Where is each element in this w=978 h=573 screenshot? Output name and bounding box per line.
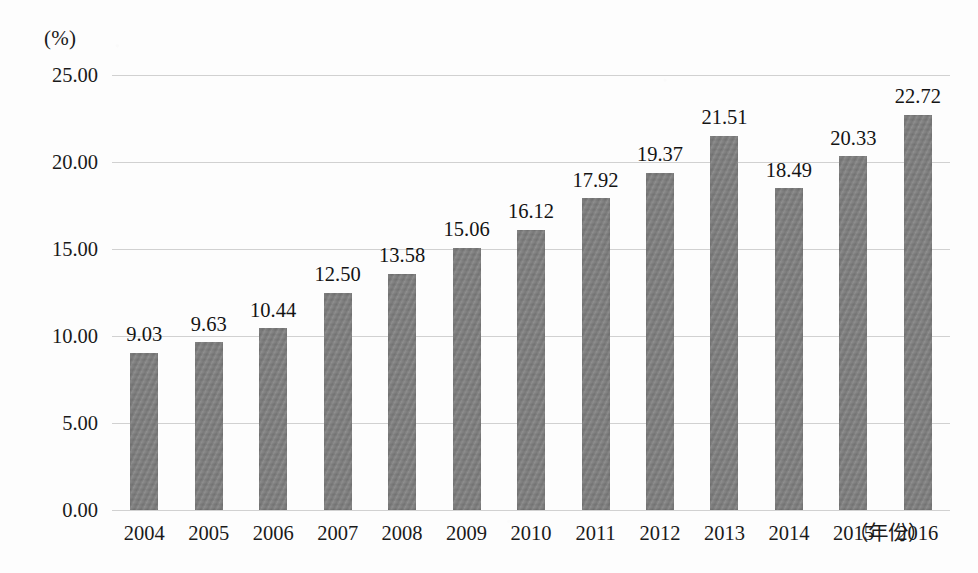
bar-slot: 9.03 bbox=[112, 75, 176, 510]
bar bbox=[324, 293, 352, 511]
bar-value-label: 16.12 bbox=[508, 201, 554, 222]
bar-slot: 17.92 bbox=[563, 75, 627, 510]
bar-value-label: 17.92 bbox=[572, 170, 618, 191]
bar bbox=[582, 198, 610, 510]
bar bbox=[388, 274, 416, 510]
x-axis-tick-label: 2007 bbox=[305, 516, 369, 550]
bar-value-label: 13.58 bbox=[379, 245, 425, 266]
bar bbox=[775, 188, 803, 510]
bar-value-label: 9.03 bbox=[126, 324, 162, 345]
bar-slot: 20.33 bbox=[821, 75, 885, 510]
bar-slot: 15.06 bbox=[434, 75, 498, 510]
y-axis-tick-labels: 0.005.0010.0015.0020.0025.00 bbox=[0, 75, 98, 510]
bar bbox=[839, 156, 867, 510]
x-axis-tick-label: 2008 bbox=[370, 516, 434, 550]
y-axis-unit-label: (%) bbox=[44, 26, 76, 51]
x-axis-tick-label: 2004 bbox=[112, 516, 176, 550]
bar-slot: 18.49 bbox=[757, 75, 821, 510]
x-axis-tick-label: 2012 bbox=[628, 516, 692, 550]
bar-value-label: 21.51 bbox=[701, 107, 747, 128]
bar bbox=[710, 136, 738, 510]
bar bbox=[646, 173, 674, 510]
bar-slot: 12.50 bbox=[305, 75, 369, 510]
bar-value-label: 10.44 bbox=[250, 300, 296, 321]
bar-value-label: 20.33 bbox=[830, 128, 876, 149]
bar bbox=[130, 353, 158, 510]
bar bbox=[904, 115, 932, 510]
y-axis-tick-label: 5.00 bbox=[12, 413, 98, 434]
bar-slot: 19.37 bbox=[628, 75, 692, 510]
x-axis-title: （年份） bbox=[848, 516, 928, 550]
bar-chart-figure: (%) 0.005.0010.0015.0020.0025.00 9.039.6… bbox=[0, 0, 978, 573]
bar-series: 9.039.6310.4412.5013.5815.0616.1217.9219… bbox=[112, 75, 950, 510]
y-axis-tick-label: 25.00 bbox=[12, 65, 98, 86]
bar-slot: 10.44 bbox=[241, 75, 305, 510]
bar-slot: 22.72 bbox=[886, 75, 950, 510]
bar bbox=[259, 328, 287, 510]
y-axis-tick-label: 20.00 bbox=[12, 152, 98, 173]
y-axis-tick-label: 0.00 bbox=[12, 500, 98, 521]
x-axis-tick-label: 2005 bbox=[176, 516, 240, 550]
bar bbox=[517, 230, 545, 510]
x-axis-tick-label: 2010 bbox=[499, 516, 563, 550]
x-axis-tick-label: 2006 bbox=[241, 516, 305, 550]
x-axis-tick-labels: 2004200520062007200820092010201120122013… bbox=[112, 516, 950, 550]
gridline bbox=[112, 510, 950, 511]
bar bbox=[195, 342, 223, 510]
bar-value-label: 19.37 bbox=[637, 144, 683, 165]
y-axis-tick-label: 10.00 bbox=[12, 326, 98, 347]
bar-slot: 13.58 bbox=[370, 75, 434, 510]
x-axis-tick-label: 2014 bbox=[757, 516, 821, 550]
x-axis-tick-label: 2009 bbox=[434, 516, 498, 550]
x-axis-tick-label: 2011 bbox=[563, 516, 627, 550]
bar-slot: 9.63 bbox=[176, 75, 240, 510]
x-axis-tick-label: 2013 bbox=[692, 516, 756, 550]
bar-value-label: 15.06 bbox=[444, 219, 490, 240]
bar-slot: 16.12 bbox=[499, 75, 563, 510]
plot-area: 9.039.6310.4412.5013.5815.0616.1217.9219… bbox=[112, 75, 950, 510]
bar-value-label: 12.50 bbox=[315, 264, 361, 285]
bar-value-label: 9.63 bbox=[191, 314, 227, 335]
bar-value-label: 18.49 bbox=[766, 160, 812, 181]
bar bbox=[453, 248, 481, 510]
bar-slot: 21.51 bbox=[692, 75, 756, 510]
y-axis-tick-label: 15.00 bbox=[12, 239, 98, 260]
bar-value-label: 22.72 bbox=[895, 86, 941, 107]
